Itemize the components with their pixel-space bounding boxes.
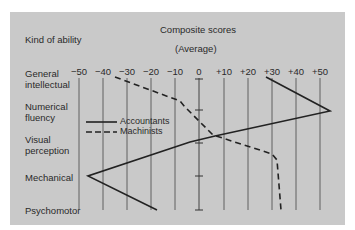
chart-plot bbox=[0, 0, 355, 230]
legend-accountants: Accountants bbox=[120, 116, 170, 126]
legend bbox=[86, 122, 117, 132]
series-accountants bbox=[88, 77, 330, 210]
legend-machinists: Machinists bbox=[120, 126, 163, 136]
